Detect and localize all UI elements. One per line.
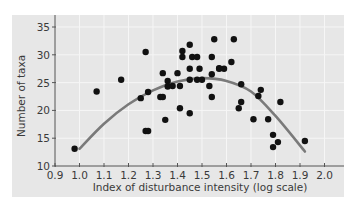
data-point	[160, 70, 166, 76]
data-point	[228, 59, 234, 65]
data-point	[275, 139, 281, 145]
data-point	[209, 94, 215, 100]
x-tick-label: 1.7	[243, 169, 260, 181]
data-point	[231, 36, 237, 42]
y-tick-label: 30	[37, 49, 50, 61]
x-axis-title: Index of disturbance intensity (log scal…	[93, 181, 308, 193]
data-point	[199, 77, 205, 83]
data-point	[270, 144, 276, 150]
data-point	[187, 77, 193, 83]
x-tick-label: 1.3	[145, 169, 162, 181]
data-point	[174, 70, 180, 76]
y-tick-label: 15	[37, 132, 50, 144]
data-point	[265, 116, 271, 122]
data-point	[206, 83, 212, 89]
data-point	[187, 110, 193, 116]
data-point	[258, 87, 264, 93]
data-point	[238, 99, 244, 105]
data-point	[179, 48, 185, 54]
data-point	[71, 146, 77, 152]
data-point	[187, 66, 193, 72]
data-point	[179, 54, 185, 60]
data-point	[255, 93, 261, 99]
data-point	[196, 66, 202, 72]
x-tick-label: 2.0	[316, 169, 333, 181]
x-tick-label: 1.9	[292, 169, 309, 181]
data-point	[160, 94, 166, 100]
x-tick-label: 1.8	[267, 169, 284, 181]
data-point	[277, 99, 283, 105]
data-point	[145, 89, 151, 95]
data-point	[142, 49, 148, 55]
data-point	[209, 54, 215, 60]
data-point	[169, 83, 175, 89]
data-point	[209, 71, 215, 77]
x-tick-label: 1.1	[96, 169, 113, 181]
data-point	[221, 66, 227, 72]
x-tick-label: 1.4	[169, 169, 186, 181]
data-point	[177, 105, 183, 111]
data-point	[162, 117, 168, 123]
data-point	[177, 83, 183, 89]
scatter-chart: 0.91.01.11.21.31.41.51.61.71.81.92.0 101…	[0, 0, 358, 220]
x-tick-label: 1.6	[218, 169, 235, 181]
data-point	[211, 36, 217, 42]
data-point	[118, 77, 124, 83]
y-tick-label: 10	[37, 160, 50, 172]
data-points	[71, 36, 308, 152]
data-point	[194, 54, 200, 60]
data-point	[187, 42, 193, 48]
data-point	[165, 78, 171, 84]
y-tick-label: 35	[37, 21, 50, 33]
data-point	[138, 95, 144, 101]
x-tick-label: 1.2	[120, 169, 137, 181]
y-tick-label: 25	[37, 77, 50, 89]
x-tick-label: 1.0	[71, 169, 88, 181]
y-tick-label: 20	[37, 104, 50, 116]
data-point	[236, 105, 242, 111]
data-point	[270, 132, 276, 138]
x-tick-label: 1.5	[194, 169, 211, 181]
data-point	[238, 81, 244, 87]
data-point	[93, 88, 99, 94]
data-point	[145, 128, 151, 134]
data-point	[250, 116, 256, 122]
y-axis-ticks: 101520253035	[37, 21, 56, 172]
y-axis-title: Number of taxa	[15, 55, 27, 137]
data-point	[302, 138, 308, 144]
